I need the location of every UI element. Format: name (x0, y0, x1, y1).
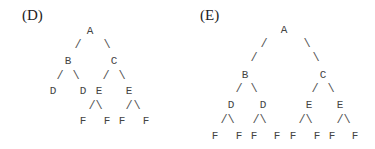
tree-node-d: D (80, 86, 87, 97)
edge-left: / (56, 70, 63, 82)
edge-right: \ (312, 52, 319, 64)
tree-node-f: F (119, 116, 126, 127)
tree-node-e: E (126, 86, 133, 97)
tree-node-d: D (260, 100, 267, 111)
edge-left: / (74, 39, 81, 51)
tree-node-f: F (314, 131, 321, 142)
edge-right: \ (72, 70, 79, 82)
tree-node-f: F (352, 131, 359, 142)
tree-node-a: A (87, 26, 94, 37)
tree-node-f: F (251, 131, 258, 142)
tree-node-f: F (143, 116, 150, 127)
tree-node-f: F (290, 131, 297, 142)
edge-left: / (311, 83, 318, 95)
edge-left: / (250, 52, 257, 64)
tree-node-d: D (50, 86, 57, 97)
tree-node-e: E (96, 86, 103, 97)
tree-node-e: E (337, 100, 344, 111)
tree-node-b: B (65, 56, 72, 67)
edge-right: \ (103, 39, 110, 51)
edge-right: \ (227, 114, 234, 126)
panel-label: (D) (22, 8, 43, 23)
tree-node-c: C (320, 70, 327, 81)
edge-right: \ (305, 114, 312, 126)
edge-right: \ (250, 83, 257, 95)
tree-node-d: D (228, 100, 235, 111)
tree-node-f: F (236, 131, 243, 142)
tree-node-e: E (306, 100, 313, 111)
edge-right: \ (327, 83, 334, 95)
edge-left: / (102, 70, 109, 82)
tree-node-c: C (111, 56, 118, 67)
tree-node-b: B (242, 70, 249, 81)
tree-node-f: F (80, 116, 87, 127)
tree-node-f: F (104, 116, 111, 127)
tree-node-f: F (212, 131, 219, 142)
edge-left: / (125, 100, 132, 112)
edge-right: \ (259, 114, 266, 126)
edge-right: \ (118, 70, 125, 82)
edge-right: \ (133, 100, 140, 112)
edge-left: / (260, 38, 267, 50)
edge-right: \ (303, 38, 310, 50)
edge-right: \ (343, 114, 350, 126)
tree-node-f: F (329, 131, 336, 142)
tree-node-a: A (281, 25, 288, 36)
panel-label: (E) (200, 8, 219, 23)
edge-left: / (235, 83, 242, 95)
tree-node-f: F (274, 131, 281, 142)
edge-right: \ (95, 100, 102, 112)
